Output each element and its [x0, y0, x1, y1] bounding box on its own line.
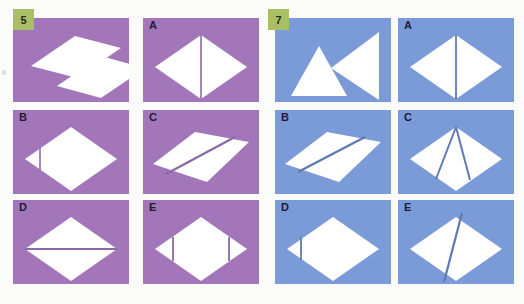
question-panel-5: ABCDE — [0, 0, 262, 304]
white-shape — [25, 127, 117, 191]
puzzle-cell-q5-option-e[interactable]: E — [143, 200, 259, 284]
option-letter-e: E — [149, 202, 157, 213]
puzzle-cell-q7-option-c[interactable]: C — [398, 110, 514, 194]
option-letter-c: C — [404, 112, 412, 123]
puzzle-cell-q7-option-e[interactable]: E — [398, 200, 514, 284]
shape-figure-q7-option-b — [275, 110, 391, 194]
puzzle-cell-q7-option-b[interactable]: B — [275, 110, 391, 194]
shape-figure-q7-option-e — [398, 200, 514, 284]
option-letter-a: A — [404, 20, 412, 31]
question-panel-7: ABCDE — [262, 0, 524, 304]
option-letter-b: B — [281, 112, 289, 123]
option-letter-b: B — [19, 112, 27, 123]
shape-figure-q5-option-c — [143, 110, 259, 194]
puzzle-cell-q5-prompt[interactable] — [13, 18, 129, 102]
shape-figure-q7-option-d — [275, 200, 391, 284]
white-shape — [155, 217, 247, 281]
puzzle-cell-q5-option-d[interactable]: D — [13, 200, 129, 284]
shape-figure-q5-option-a — [143, 18, 259, 102]
puzzle-cell-q5-option-a[interactable]: A — [143, 18, 259, 102]
shape-figure-q7-option-a — [398, 18, 514, 102]
question-number-badge-7: 7 — [268, 9, 289, 30]
puzzle-cell-q7-option-d[interactable]: D — [275, 200, 391, 284]
worksheet-page: ABCDE ABCDE 5 7 — [0, 0, 524, 304]
option-letter-a: A — [149, 20, 157, 31]
shape-figure-q5-prompt — [13, 18, 129, 102]
shape-figure-q7-prompt — [275, 18, 391, 102]
shape-figure-q7-option-c — [398, 110, 514, 194]
shape-figure-q5-option-b — [13, 110, 129, 194]
shape-figure-q5-option-e — [143, 200, 259, 284]
white-shape — [410, 217, 502, 281]
puzzle-cell-q5-option-c[interactable]: C — [143, 110, 259, 194]
option-letter-c: C — [149, 112, 157, 123]
question-number-badge-5: 5 — [13, 9, 34, 30]
white-shape — [410, 127, 502, 191]
option-letter-d: D — [281, 202, 289, 213]
option-letter-e: E — [404, 202, 412, 213]
puzzle-cell-q7-option-a[interactable]: A — [398, 18, 514, 102]
puzzle-cell-q5-option-b[interactable]: B — [13, 110, 129, 194]
option-letter-d: D — [19, 202, 27, 213]
puzzle-cell-q7-prompt[interactable] — [275, 18, 391, 102]
white-shape — [285, 132, 381, 182]
shape-figure-q5-option-d — [13, 200, 129, 284]
